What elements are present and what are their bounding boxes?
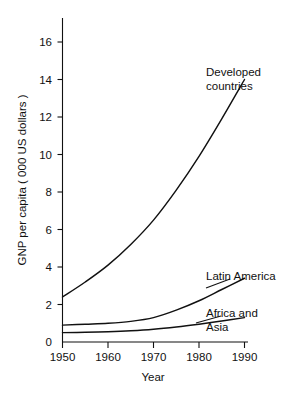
x-tick-label-1970: 1970 [141, 351, 167, 363]
y-tick-label-16: 16 [39, 36, 52, 48]
series-annotations: Developed countries Latin America Africa… [206, 66, 276, 333]
series-label-latin-america: Latin America [206, 270, 276, 282]
series-label-africa-and-asia-line2: Asia [206, 321, 229, 333]
series-label-developed-countries-line1: Developed [206, 66, 261, 78]
y-tick-label-6: 6 [46, 224, 52, 236]
y-tick-label-2: 2 [46, 299, 52, 311]
x-tick-label-1950: 1950 [50, 351, 76, 363]
x-axis-title: Year [141, 371, 164, 383]
x-axis-ticks: 1950 1960 1970 1980 1990 [50, 342, 258, 363]
y-tick-label-12: 12 [39, 111, 52, 123]
chart-figure: 16 14 12 10 8 6 4 2 0 1950 1960 1970 [0, 0, 299, 400]
gnp-per-capita-line-chart: 16 14 12 10 8 6 4 2 0 1950 1960 1970 [0, 0, 299, 400]
y-axis-title: GNP per capita ( 000 US dollars ) [16, 94, 28, 265]
y-axis-ticks: 16 14 12 10 8 6 4 2 0 [39, 36, 62, 348]
y-tick-label-4: 4 [46, 261, 53, 273]
y-tick-label-14: 14 [39, 74, 52, 86]
chart-series-curves [63, 80, 245, 333]
y-tick-label-8: 8 [46, 186, 52, 198]
y-tick-label-0: 0 [46, 336, 52, 348]
y-tick-label-10: 10 [39, 149, 52, 161]
series-curve-developed-countries [63, 80, 245, 298]
x-tick-label-1960: 1960 [95, 351, 121, 363]
x-tick-label-1980: 1980 [186, 351, 212, 363]
series-label-developed-countries-line2: countries [206, 80, 253, 92]
x-tick-label-1990: 1990 [232, 351, 258, 363]
series-label-africa-and-asia-line1: Africa and [206, 307, 258, 319]
